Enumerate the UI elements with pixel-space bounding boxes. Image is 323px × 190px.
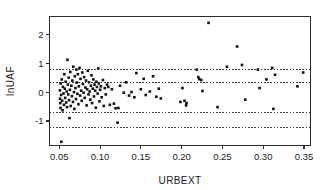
- data-point: [90, 84, 93, 87]
- data-point: [95, 106, 98, 109]
- data-point: [113, 102, 116, 105]
- data-point: [183, 99, 186, 102]
- data-point: [59, 82, 62, 85]
- y-tick-label: 0: [38, 87, 43, 98]
- data-point: [100, 85, 103, 88]
- data-point: [274, 74, 277, 77]
- data-point: [302, 71, 305, 74]
- data-point: [109, 104, 112, 107]
- data-point: [149, 90, 152, 93]
- data-point: [94, 89, 97, 92]
- data-point: [61, 109, 64, 112]
- data-point: [87, 93, 90, 96]
- data-point: [83, 97, 86, 100]
- data-point: [77, 73, 80, 76]
- data-point: [157, 87, 160, 90]
- data-point: [140, 88, 143, 91]
- data-point: [90, 74, 93, 77]
- data-point: [179, 101, 182, 104]
- data-point: [61, 99, 64, 102]
- data-point: [135, 72, 138, 75]
- data-point: [64, 87, 67, 90]
- data-point: [78, 67, 81, 70]
- data-point: [69, 89, 72, 92]
- data-point: [66, 106, 69, 109]
- data-point: [72, 101, 75, 104]
- data-point: [69, 105, 72, 108]
- data-point: [78, 85, 81, 88]
- data-point: [68, 117, 71, 120]
- data-point: [80, 89, 83, 92]
- data-point: [257, 68, 260, 71]
- data-point: [79, 78, 82, 81]
- data-point: [130, 91, 133, 94]
- data-point: [64, 80, 67, 83]
- data-point: [67, 76, 70, 79]
- data-point: [70, 84, 73, 87]
- data-point: [69, 71, 72, 74]
- data-point: [59, 102, 62, 105]
- data-point: [91, 102, 94, 105]
- data-point: [155, 95, 158, 98]
- data-point: [185, 104, 188, 107]
- data-point: [244, 98, 247, 101]
- data-point: [160, 97, 163, 100]
- data-point: [68, 99, 71, 102]
- data-point: [89, 98, 92, 101]
- data-point: [80, 99, 83, 102]
- data-point: [72, 65, 75, 68]
- data-point: [60, 140, 63, 143]
- data-point: [85, 104, 88, 107]
- data-point: [66, 58, 69, 61]
- data-point: [63, 73, 66, 76]
- data-point: [125, 81, 128, 84]
- data-point: [142, 78, 145, 81]
- data-point: [226, 65, 229, 68]
- data-point: [102, 105, 105, 108]
- data-point: [65, 90, 68, 93]
- data-point: [265, 78, 268, 81]
- data-point: [75, 68, 78, 71]
- x-tick-label: 0.25: [213, 151, 232, 162]
- data-point: [59, 89, 62, 92]
- data-point: [116, 121, 119, 124]
- data-point: [100, 96, 103, 99]
- data-point: [71, 95, 74, 98]
- data-point: [76, 81, 79, 84]
- data-point: [86, 88, 89, 91]
- data-point: [271, 67, 274, 70]
- data-point: [185, 102, 188, 105]
- data-point: [81, 71, 84, 74]
- data-point: [88, 81, 91, 84]
- data-point: [88, 90, 91, 93]
- data-point: [96, 92, 99, 95]
- data-point: [272, 108, 275, 111]
- data-point: [91, 87, 94, 90]
- data-point: [64, 97, 67, 100]
- data-point: [98, 82, 101, 85]
- data-point: [200, 79, 203, 82]
- data-point: [71, 79, 74, 82]
- x-tick-label: 0.15: [132, 151, 151, 162]
- data-point: [73, 75, 76, 78]
- data-point: [82, 91, 85, 94]
- data-point: [62, 92, 65, 95]
- x-tick-label: 0.10: [91, 151, 110, 162]
- data-point: [258, 87, 261, 90]
- data-point: [74, 87, 77, 90]
- data-point: [122, 91, 125, 94]
- data-point: [207, 22, 210, 25]
- data-point: [128, 94, 131, 97]
- data-point: [107, 86, 110, 89]
- figure-background: [0, 0, 323, 190]
- x-tick-label: 0.30: [254, 151, 273, 162]
- data-point: [92, 78, 95, 81]
- data-point: [63, 104, 66, 107]
- data-point: [216, 106, 219, 109]
- y-tick-label: 1: [38, 58, 43, 69]
- data-point: [102, 79, 105, 82]
- data-point: [93, 83, 96, 86]
- data-point: [98, 100, 101, 103]
- data-point: [241, 64, 244, 67]
- data-point: [106, 83, 109, 86]
